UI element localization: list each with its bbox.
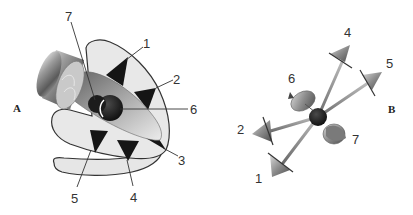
callout-a-2: 2: [173, 72, 180, 87]
callout-b-5: 5: [386, 56, 393, 71]
callout-a-1: 1: [143, 36, 150, 51]
callout-a-4: 4: [130, 190, 137, 205]
callout-b-7: 7: [352, 132, 359, 147]
panel-a-label: A: [13, 102, 21, 114]
cone-7: [323, 124, 346, 144]
callout-b-1: 1: [255, 171, 262, 186]
panel-b: B: [237, 25, 396, 186]
panel-a: A: [13, 9, 197, 206]
cone-2: [252, 117, 273, 145]
callout-b-6: 6: [288, 71, 295, 86]
diagram-figure: A: [0, 0, 413, 215]
callout-a-3: 3: [178, 153, 185, 168]
callout-a-5: 5: [71, 191, 78, 206]
callout-b-2: 2: [237, 122, 244, 137]
center-ball: [309, 108, 327, 126]
panel-b-label: B: [388, 103, 396, 115]
callout-b-4: 4: [344, 25, 351, 40]
callout-a-6: 6: [190, 102, 197, 117]
cone-5: [360, 70, 382, 96]
callout-a-7: 7: [65, 9, 72, 24]
ball-ring-back: [88, 95, 106, 113]
